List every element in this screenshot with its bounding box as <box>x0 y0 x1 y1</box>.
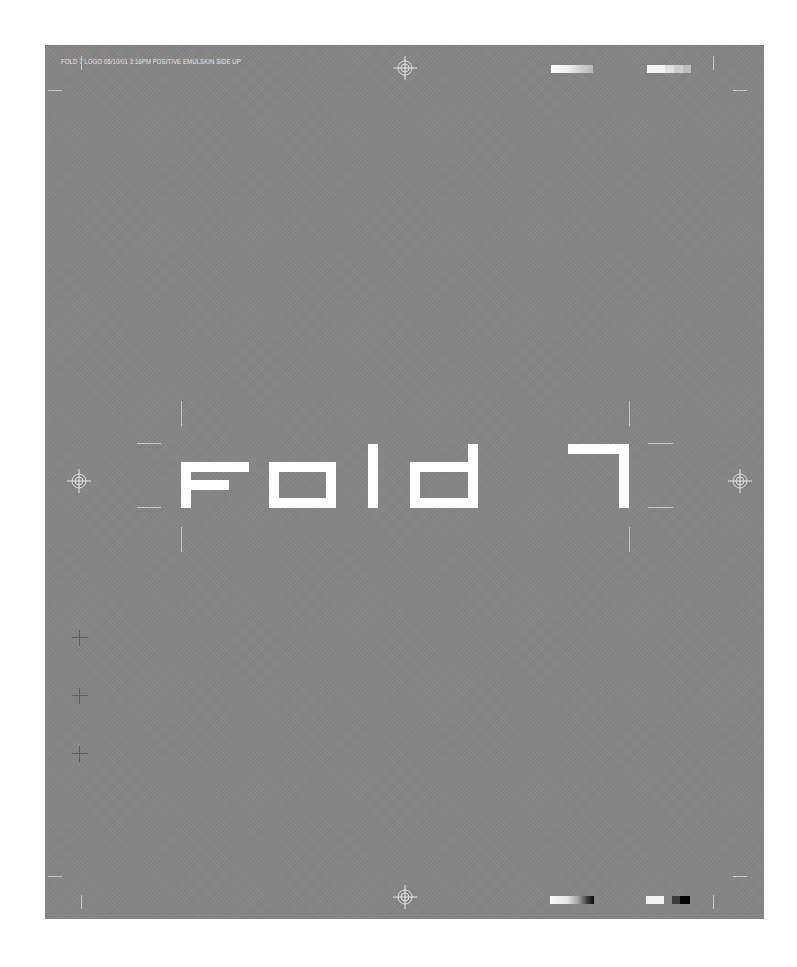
crosshair-mark <box>72 688 88 704</box>
registration-target-icon <box>393 885 417 909</box>
logo-glyph-7-stem <box>619 444 629 508</box>
crop-mark-bottom-left-v <box>81 895 82 909</box>
logo-frame-right-lower <box>648 507 673 508</box>
logo-glyph-d-ascender <box>468 444 478 472</box>
registration-target-icon <box>393 56 417 80</box>
crop-mark-top-left-h <box>48 90 62 91</box>
crosshair-mark <box>72 630 88 646</box>
registration-target-icon <box>67 469 91 493</box>
logo-frame-left-bottom <box>181 527 182 552</box>
logo-frame-right-upper <box>648 443 673 444</box>
slug-line: FOLD 7 LOGO 05/10/01 3:16PM POSITIVE EMU… <box>61 58 241 65</box>
registration-target-icon <box>728 469 752 493</box>
logo-frame-left-top <box>181 401 182 426</box>
logo-glyph-f-top <box>181 462 249 472</box>
crop-mark-bottom-right-h <box>733 876 747 877</box>
color-bar-gradient-top <box>551 65 593 73</box>
logo-glyph-l <box>368 444 378 508</box>
color-bar-step-wedge-bottom <box>646 896 690 904</box>
logo-frame-left-lower <box>137 507 161 508</box>
logo-glyph-f-middle <box>181 480 229 490</box>
logo-frame-left-upper <box>137 443 161 444</box>
crop-mark-top-right-h <box>733 90 747 91</box>
logo-glyph-o <box>269 462 336 508</box>
color-bar-gradient-bottom <box>550 896 594 904</box>
logo-frame-right-top <box>629 401 630 426</box>
film-sheet <box>45 45 764 919</box>
crop-mark-bottom-right-v <box>713 895 714 909</box>
crosshair-mark <box>72 746 88 762</box>
crop-mark-top-left-v <box>81 56 82 70</box>
logo-frame-right-bottom <box>629 527 630 552</box>
crop-mark-bottom-left-h <box>48 876 62 877</box>
color-bar-step-wedge-top <box>647 65 691 73</box>
crop-mark-top-right-v <box>713 56 714 70</box>
